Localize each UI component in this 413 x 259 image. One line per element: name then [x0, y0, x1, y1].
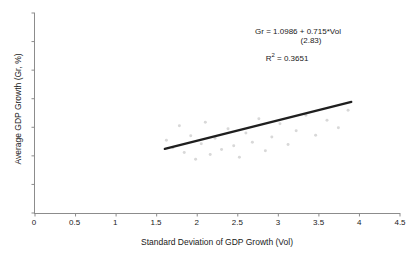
x-axis-tick-label: 2.5 [232, 219, 243, 227]
scatter-point [244, 132, 247, 135]
scatter-point [270, 136, 273, 139]
regression-equation: Gr = 1.0986 + 0.715*Vol [218, 27, 378, 36]
x-axis-tick-label: 1 [113, 219, 117, 227]
scatter-point [165, 139, 168, 142]
y-axis-title: Average GDP Growth (Gr, %) [13, 9, 23, 209]
y-axis-tick-marks [32, 13, 35, 213]
scatter-points-group [165, 109, 350, 161]
regression-scatter-chart: 00.511.522.533.544.501234567 Standard De… [0, 0, 413, 259]
x-axis-title: Standard Deviation of GDP Growth (Vol) [34, 237, 400, 247]
scatter-point [326, 119, 329, 122]
scatter-point [337, 126, 340, 129]
r-squared-text: R2 = 0.3651 [218, 52, 378, 63]
scatter-point [287, 143, 290, 146]
scatter-point [209, 153, 212, 156]
regression-fit-line [165, 102, 352, 149]
scatter-point [251, 141, 254, 144]
scatter-point [189, 134, 192, 137]
r-squared-value: = 0.3651 [275, 54, 309, 63]
scatter-point [232, 144, 235, 147]
scatter-point [227, 127, 230, 130]
scatter-point [183, 151, 186, 154]
regression-annotation: Gr = 1.0986 + 0.715*Vol (2.83) R2 = 0.36… [218, 27, 378, 63]
scatter-point [204, 121, 207, 124]
x-axis-tick-label: 3 [276, 219, 280, 227]
scatter-point [178, 124, 181, 127]
x-axis-tick-label: 0.5 [69, 219, 80, 227]
scatter-point [278, 122, 281, 125]
x-axis-tick-label: 4 [357, 219, 361, 227]
x-axis-tick-label: 1.5 [150, 219, 161, 227]
scatter-point [295, 129, 298, 132]
scatter-point [264, 149, 267, 152]
scatter-point [220, 148, 223, 151]
scatter-point [314, 134, 317, 137]
scatter-point [347, 109, 350, 112]
x-axis-tick-label: 0 [32, 219, 36, 227]
x-axis-tick-label: 3.5 [313, 219, 324, 227]
scatter-point [194, 158, 197, 161]
x-axis-tick-label: 2 [194, 219, 198, 227]
scatter-point [257, 117, 260, 120]
regression-t-statistic: (2.83) [218, 36, 378, 45]
scatter-point [238, 156, 241, 159]
x-axis-tick-label: 4.5 [394, 219, 405, 227]
x-axis-tick-marks [35, 213, 400, 216]
scatter-point [200, 142, 203, 145]
